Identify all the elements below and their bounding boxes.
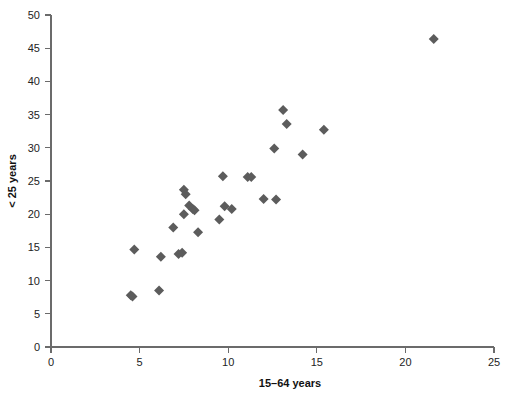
- y-tick-label: 30: [28, 142, 40, 154]
- y-tick-label: 40: [28, 75, 40, 87]
- scatter-point: [218, 171, 228, 181]
- scatter-point: [319, 125, 329, 135]
- x-tick-label: 5: [137, 356, 143, 368]
- x-tick-label: 15: [311, 356, 323, 368]
- scatter-point: [298, 149, 308, 159]
- y-tick-label: 15: [28, 241, 40, 253]
- scatter-point: [271, 195, 281, 205]
- y-tick-label: 45: [28, 42, 40, 54]
- scatter-point: [193, 227, 203, 237]
- data-points: [126, 34, 439, 302]
- y-tick-label: 50: [28, 9, 40, 21]
- x-tick-label: 0: [48, 356, 54, 368]
- y-axis: 05101520253035404550: [28, 9, 51, 353]
- scatter-point: [429, 34, 439, 44]
- y-tick-label: 35: [28, 109, 40, 121]
- scatter-point: [214, 215, 224, 225]
- scatter-chart: 05101520253035404550 0510152025 15–64 ye…: [0, 0, 514, 400]
- y-axis-title: < 25 years: [6, 154, 18, 208]
- scatter-point: [168, 222, 178, 232]
- x-axis: 0510152025: [48, 347, 500, 368]
- scatter-point: [156, 252, 166, 262]
- scatter-point: [154, 286, 164, 296]
- x-tick-label: 25: [488, 356, 500, 368]
- scatter-point: [278, 105, 288, 115]
- scatter-point: [129, 244, 139, 254]
- x-tick-label: 10: [222, 356, 234, 368]
- y-tick-label: 20: [28, 208, 40, 220]
- scatter-point: [259, 194, 269, 204]
- scatter-point: [179, 209, 189, 219]
- x-tick-label: 20: [399, 356, 411, 368]
- y-tick-label: 10: [28, 275, 40, 287]
- y-tick-label: 0: [34, 341, 40, 353]
- x-axis-title: 15–64 years: [259, 377, 321, 389]
- plot-canvas: 05101520253035404550 0510152025 15–64 ye…: [0, 0, 514, 400]
- scatter-point: [269, 143, 279, 153]
- scatter-point: [282, 119, 292, 129]
- y-tick-label: 5: [34, 308, 40, 320]
- y-tick-label: 25: [28, 175, 40, 187]
